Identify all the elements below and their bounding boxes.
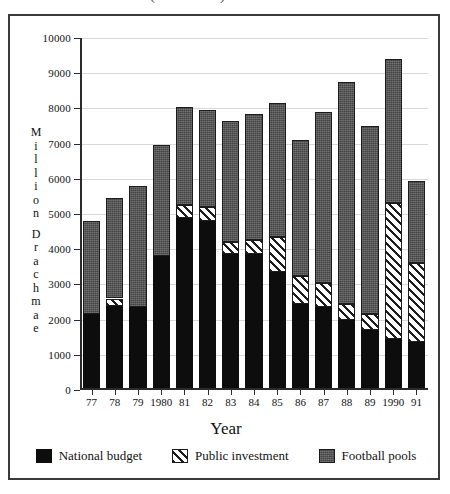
x-axis-tick xyxy=(115,390,116,395)
legend-item-national-budget[interactable]: National budget xyxy=(36,448,142,464)
x-axis-tick xyxy=(416,390,417,395)
x-axis-tick xyxy=(300,390,301,395)
bar-segment-football-pools xyxy=(408,181,425,264)
y-axis-tick-label: 0 xyxy=(65,384,71,396)
bar-segment-public-investment xyxy=(315,283,332,308)
x-axis-tick-label: 86 xyxy=(295,396,306,408)
legend-item-public-investment[interactable]: Public investment xyxy=(172,448,289,464)
bar-segment-public-investment xyxy=(385,203,402,339)
bar-segment-national-budget xyxy=(385,339,402,390)
bar-79[interactable] xyxy=(129,186,146,390)
x-axis-tick xyxy=(184,390,185,395)
bar-segment-national-budget xyxy=(176,218,193,390)
y-axis-tick-label: 6000 xyxy=(48,173,71,185)
bar-segment-public-investment xyxy=(292,276,309,304)
y-axis-tick-label: 2000 xyxy=(48,314,71,326)
x-axis-tick-label: 81 xyxy=(179,396,190,408)
x-axis-tick-label: 1980 xyxy=(150,396,172,408)
clipped-figure-title: (1977-1991) xyxy=(0,0,450,12)
x-axis-tick-label: 83 xyxy=(225,396,236,408)
bar-87[interactable] xyxy=(315,112,332,390)
bar-85[interactable] xyxy=(269,103,286,390)
x-axis-title: Year xyxy=(10,419,442,439)
bar-segment-public-investment xyxy=(408,263,425,342)
bar-77[interactable] xyxy=(83,221,100,390)
x-axis-tick-label: 77 xyxy=(86,396,97,408)
legend-label: National budget xyxy=(59,448,142,464)
clipped-title-text: (1977-1991) xyxy=(150,0,225,4)
bar-segment-public-investment xyxy=(269,237,286,272)
bar-91[interactable] xyxy=(408,181,425,390)
bar-82[interactable] xyxy=(199,110,216,390)
legend-swatch-icon xyxy=(36,449,52,463)
bar-segment-national-budget xyxy=(315,307,332,390)
bar-segment-football-pools xyxy=(176,107,193,206)
bar-segment-football-pools xyxy=(83,221,100,314)
x-axis-tick-label: 1990 xyxy=(382,396,404,408)
bar-segment-football-pools xyxy=(129,186,146,307)
x-axis-tick xyxy=(161,390,162,395)
figure-frame: MillionDrachmae 010002000300040005000600… xyxy=(8,14,440,480)
x-axis-line xyxy=(80,388,428,390)
bar-segment-public-investment xyxy=(106,299,123,306)
x-axis-tick-label: 84 xyxy=(249,396,260,408)
legend-swatch-icon xyxy=(172,449,188,463)
bar-segment-national-budget xyxy=(129,307,146,390)
bar-segment-public-investment xyxy=(361,314,378,330)
bar-segment-national-budget xyxy=(292,304,309,390)
bar-segment-national-budget xyxy=(269,272,286,390)
bar-segment-national-budget xyxy=(361,330,378,390)
y-axis-title-letter: i xyxy=(28,180,44,194)
bar-segment-football-pools xyxy=(292,140,309,276)
bar-segment-football-pools xyxy=(338,82,355,304)
y-axis-tick-label: 10000 xyxy=(43,32,72,44)
bar-segment-public-investment xyxy=(176,205,193,217)
y-axis-line xyxy=(80,38,82,390)
y-axis-tick-label: 3000 xyxy=(48,278,71,290)
y-axis-tick-label: 9000 xyxy=(48,67,71,79)
x-axis-tick xyxy=(231,390,232,395)
bar-88[interactable] xyxy=(338,82,355,390)
bar-segment-football-pools xyxy=(153,145,170,256)
y-axis-title-letter: l xyxy=(28,167,44,181)
y-axis-title-letter: M xyxy=(28,126,44,140)
bar-segment-national-budget xyxy=(408,342,425,390)
y-axis-tick xyxy=(74,390,80,391)
x-axis-tick xyxy=(92,390,93,395)
bar-segment-public-investment xyxy=(338,304,355,320)
bar-segment-national-budget xyxy=(338,320,355,390)
bar-segment-football-pools xyxy=(222,121,239,242)
grid-line xyxy=(80,73,428,74)
bar-78[interactable] xyxy=(106,198,123,390)
bar-segment-national-budget xyxy=(153,256,170,390)
bar-segment-football-pools xyxy=(269,103,286,237)
legend-label: Football pools xyxy=(342,448,417,464)
bar-segment-public-investment xyxy=(222,242,239,254)
legend-item-football-pools[interactable]: Football pools xyxy=(319,448,417,464)
legend-label: Public investment xyxy=(195,448,289,464)
bar-segment-national-budget xyxy=(83,314,100,390)
bar-84[interactable] xyxy=(245,114,262,390)
x-axis-tick-label: 87 xyxy=(318,396,329,408)
bar-1990[interactable] xyxy=(385,59,402,390)
y-axis-title-letter: e xyxy=(28,322,44,336)
bar-86[interactable] xyxy=(292,140,309,390)
grid-line xyxy=(80,108,428,109)
x-axis-tick xyxy=(254,390,255,395)
y-axis-title-letter: i xyxy=(28,140,44,154)
bar-segment-football-pools xyxy=(199,110,216,207)
x-axis-tick-label: 78 xyxy=(109,396,120,408)
bar-segment-football-pools xyxy=(361,126,378,314)
x-axis-tick-label: 91 xyxy=(411,396,422,408)
bar-81[interactable] xyxy=(176,107,193,390)
bar-1980[interactable] xyxy=(153,145,170,390)
bar-segment-football-pools xyxy=(315,112,332,283)
legend-swatch-icon xyxy=(319,449,335,463)
y-axis-tick-label: 4000 xyxy=(48,243,71,255)
bar-89[interactable] xyxy=(361,126,378,390)
y-axis-title-letter: o xyxy=(28,194,44,208)
x-axis-tick xyxy=(324,390,325,395)
bar-83[interactable] xyxy=(222,121,239,390)
y-axis-title-letter: n xyxy=(28,207,44,221)
bar-segment-football-pools xyxy=(106,198,123,298)
